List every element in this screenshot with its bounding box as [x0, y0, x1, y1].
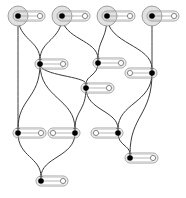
node-dot-icon[interactable]	[95, 60, 101, 66]
edge-D-G	[86, 88, 118, 129]
node-dot-icon[interactable]	[38, 178, 44, 184]
node-dot-icon[interactable]	[72, 130, 78, 136]
edge-E-H	[18, 133, 41, 177]
node-dot-icon[interactable]	[127, 155, 133, 161]
dag-diagram	[0, 0, 186, 198]
node-T2[interactable]	[52, 6, 90, 26]
node-A[interactable]	[35, 59, 68, 69]
port-circle-icon[interactable]	[50, 130, 55, 135]
node-T4[interactable]	[142, 6, 179, 26]
node-E[interactable]	[13, 128, 46, 138]
node-dot-icon[interactable]	[115, 130, 121, 136]
nodes-layer	[8, 6, 179, 186]
node-dot-icon[interactable]	[83, 85, 89, 91]
port-circle-icon[interactable]	[106, 85, 111, 90]
node-F[interactable]	[48, 128, 80, 138]
node-G[interactable]	[91, 128, 123, 138]
port-circle-icon[interactable]	[60, 61, 65, 66]
port-circle-icon[interactable]	[93, 130, 98, 135]
port-circle-icon[interactable]	[37, 13, 42, 18]
port-circle-icon[interactable]	[118, 60, 123, 65]
edge-A-E	[18, 64, 40, 129]
node-H[interactable]	[36, 176, 68, 186]
port-circle-icon[interactable]	[127, 13, 132, 18]
node-I[interactable]	[125, 153, 158, 163]
port-circle-icon[interactable]	[127, 70, 132, 75]
port-circle-icon[interactable]	[171, 13, 176, 18]
node-T3[interactable]	[97, 6, 135, 26]
node-dot-icon[interactable]	[59, 13, 65, 19]
node-C[interactable]	[125, 68, 157, 78]
node-B[interactable]	[93, 58, 126, 68]
port-circle-icon[interactable]	[38, 130, 43, 135]
port-circle-icon[interactable]	[82, 13, 87, 18]
node-dot-icon[interactable]	[149, 13, 155, 19]
node-dot-icon[interactable]	[37, 61, 43, 67]
edge-C-G	[118, 73, 152, 129]
edge-C-I	[130, 73, 152, 154]
edge-D-F	[75, 88, 86, 129]
node-dot-icon[interactable]	[15, 130, 21, 136]
port-circle-icon[interactable]	[150, 155, 155, 160]
node-dot-icon[interactable]	[15, 13, 21, 19]
edge-F-H	[41, 133, 75, 177]
port-circle-icon[interactable]	[60, 178, 65, 183]
node-dot-icon[interactable]	[104, 13, 110, 19]
node-T1[interactable]	[8, 6, 45, 26]
edge-A-D	[40, 64, 86, 84]
node-D[interactable]	[81, 83, 114, 93]
node-dot-icon[interactable]	[149, 70, 155, 76]
edge-T3-C	[107, 16, 152, 69]
